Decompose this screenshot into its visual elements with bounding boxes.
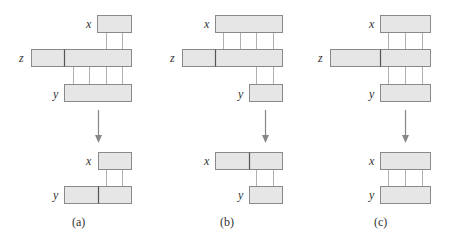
box-y: [250, 85, 283, 102]
box-x: [99, 153, 132, 170]
bottom-stage: [381, 153, 431, 204]
box-x: [381, 16, 431, 33]
box-y: [65, 85, 132, 102]
label-x: x: [204, 155, 209, 167]
box-x: [216, 16, 283, 33]
top-stage: [331, 16, 431, 102]
box-z: [32, 50, 132, 67]
arrow-down-icon: [95, 135, 102, 143]
panel-c: [331, 16, 431, 204]
top-stage: [32, 16, 132, 102]
box-x: [381, 153, 431, 170]
label-x: x: [204, 18, 209, 30]
box-y: [381, 187, 431, 204]
label-y: y: [53, 189, 58, 201]
box-y: [381, 85, 431, 102]
diagram-canvas: [0, 0, 453, 241]
label-y: y: [369, 88, 374, 100]
label-x: x: [86, 155, 91, 167]
arrow-down-icon: [402, 135, 409, 143]
panel-a: [32, 16, 132, 204]
panel-caption-c: (c): [374, 216, 387, 228]
arrow-down-icon: [262, 135, 269, 143]
top-stage: [183, 16, 283, 102]
box-y: [250, 187, 283, 204]
box-x: [98, 16, 132, 33]
label-z: z: [318, 52, 323, 64]
bottom-stage: [216, 153, 283, 204]
label-y: y: [53, 88, 58, 100]
label-z: z: [170, 52, 175, 64]
panel-caption-b: (b): [220, 216, 234, 228]
label-y: y: [238, 88, 243, 100]
label-x: x: [369, 155, 374, 167]
bottom-stage: [65, 153, 132, 204]
label-x: x: [86, 18, 91, 30]
label-y: y: [238, 189, 243, 201]
label-z: z: [19, 52, 24, 64]
panel-caption-a: (a): [72, 216, 85, 228]
label-y: y: [369, 189, 374, 201]
panel-b: [183, 16, 283, 204]
box-z: [183, 50, 283, 67]
label-x: x: [369, 18, 374, 30]
